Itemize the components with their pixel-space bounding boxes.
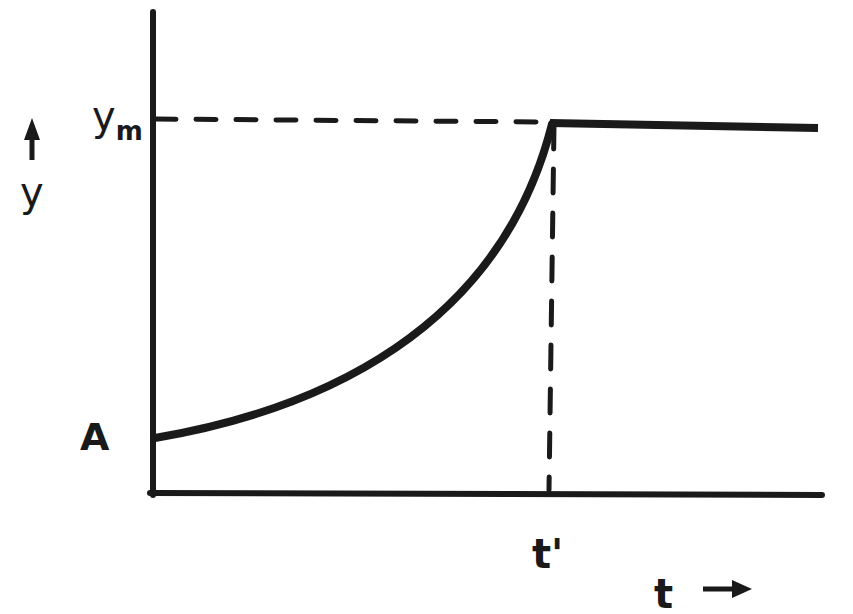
ym-dashed-reference-line xyxy=(156,119,548,122)
rising-curve xyxy=(155,124,552,438)
y-axis-label: y xyxy=(20,172,44,212)
y-arrow-icon xyxy=(24,118,40,160)
t-axis-label: t xyxy=(654,574,673,614)
growth-curve-diagram xyxy=(0,0,853,614)
t-prime-dashed-reference-line xyxy=(549,125,554,490)
x-axis xyxy=(150,493,822,495)
t-arrow-icon xyxy=(703,580,752,598)
t-prime-tick-label: t' xyxy=(532,534,563,574)
plateau-line xyxy=(550,123,818,128)
ym-tick-label: ym xyxy=(92,96,143,144)
a-tick-label: A xyxy=(80,418,109,456)
